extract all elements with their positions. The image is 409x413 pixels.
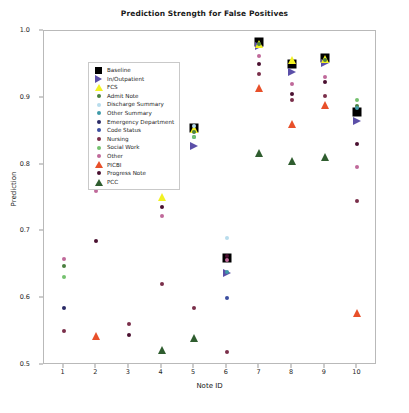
legend-label: Admit Note [107, 92, 139, 101]
y-tick-mark [39, 30, 43, 31]
x-tick-label: 5 [178, 368, 208, 376]
data-point [92, 332, 100, 340]
data-point [323, 75, 327, 79]
legend-item[interactable]: Nursing [92, 135, 174, 144]
x-tick-mark [225, 364, 226, 368]
data-point [225, 270, 229, 274]
x-tick-label: 10 [341, 368, 371, 376]
legend-item[interactable]: PICBI [92, 161, 174, 170]
x-tick-mark [160, 364, 161, 368]
data-point [355, 199, 359, 203]
data-point [355, 106, 359, 110]
data-point [288, 56, 296, 64]
data-point [160, 282, 164, 286]
x-tick-mark [356, 364, 357, 368]
data-point [94, 239, 98, 243]
legend-item[interactable]: Baseline [92, 66, 174, 75]
x-tick-mark [127, 364, 128, 368]
data-point [353, 117, 361, 125]
legend-label: Nursing [107, 135, 129, 144]
data-point [257, 54, 261, 58]
legend-item[interactable]: Admit Note [92, 92, 174, 101]
data-point [190, 142, 198, 150]
data-point [290, 98, 294, 102]
data-point [353, 309, 361, 317]
legend-label: FCS [107, 83, 118, 92]
data-point [255, 84, 263, 92]
data-point [321, 101, 329, 109]
data-point [288, 68, 296, 76]
data-point [255, 149, 263, 157]
data-point [288, 120, 296, 128]
x-axis-label: Note ID [43, 382, 376, 390]
legend-label: Baseline [107, 66, 131, 75]
legend-item[interactable]: Emergency Department [92, 118, 174, 127]
legend-item[interactable]: Other [92, 152, 174, 161]
x-tick-label: 3 [113, 368, 143, 376]
legend-item[interactable]: Progress Note [92, 169, 174, 178]
data-point [62, 257, 66, 261]
legend-label: Code Status [107, 126, 141, 135]
y-axis-label: Prediction [10, 119, 18, 259]
data-point [127, 333, 131, 337]
y-tick-mark [39, 297, 43, 298]
legend-item[interactable]: FCS [92, 83, 174, 92]
x-tick-mark [95, 364, 96, 368]
data-point [355, 165, 359, 169]
legend-item[interactable]: Discharge Summary [92, 100, 174, 109]
y-tick-label: 0.7 [0, 226, 30, 234]
plot-area: BaselineIn/OutpatientFCSAdmit NoteDischa… [43, 30, 376, 364]
data-point [160, 205, 164, 209]
data-point [355, 142, 359, 146]
y-tick-mark [39, 96, 43, 97]
data-point [62, 275, 66, 279]
data-point [225, 350, 229, 354]
legend-label: Emergency Department [107, 118, 174, 127]
legend-item[interactable]: Other Summary [92, 109, 174, 118]
data-point [355, 98, 359, 102]
x-tick-label: 4 [146, 368, 176, 376]
legend-label: PICBI [107, 161, 121, 170]
data-point [62, 329, 66, 333]
data-point [257, 72, 261, 76]
x-tick-label: 2 [80, 368, 110, 376]
y-tick-mark [39, 163, 43, 164]
data-point [192, 124, 196, 128]
x-tick-mark [193, 364, 194, 368]
legend-label: Other Summary [107, 109, 152, 118]
legend-marker-icon [92, 178, 105, 187]
data-point [62, 264, 66, 268]
data-point [225, 258, 229, 262]
data-point [62, 306, 66, 310]
data-point [192, 130, 196, 134]
data-point [192, 135, 196, 139]
data-point [225, 236, 229, 240]
data-point [323, 80, 327, 84]
data-point [257, 42, 261, 46]
data-point [290, 82, 294, 86]
y-tick-mark [39, 364, 43, 365]
x-tick-label: 6 [211, 368, 241, 376]
legend-item[interactable]: Social Work [92, 143, 174, 152]
x-tick-mark [258, 364, 259, 368]
y-tick-label: 1.0 [0, 26, 30, 34]
x-tick-mark [291, 364, 292, 368]
y-tick-mark [39, 230, 43, 231]
legend-item[interactable]: In/Outpatient [92, 75, 174, 84]
data-point [225, 296, 229, 300]
data-point [225, 254, 229, 258]
x-tick-label: 1 [48, 368, 78, 376]
legend-label: Other [107, 152, 123, 161]
legend-label: Discharge Summary [107, 100, 164, 109]
chart-legend: BaselineIn/OutpatientFCSAdmit NoteDischa… [88, 62, 180, 190]
legend-item[interactable]: PCC [92, 178, 174, 187]
x-tick-mark [323, 364, 324, 368]
data-point [192, 306, 196, 310]
x-tick-mark [62, 364, 63, 368]
data-point [288, 157, 296, 165]
legend-label: Social Work [107, 143, 140, 152]
legend-item[interactable]: Code Status [92, 126, 174, 135]
data-point [290, 92, 294, 96]
data-point [160, 214, 164, 218]
chart-figure: Prediction Strength for False Positives … [0, 0, 409, 413]
